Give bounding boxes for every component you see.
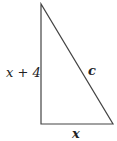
hypotenuse-label: c xyxy=(88,64,96,77)
triangle-outline xyxy=(41,4,113,124)
base-label: x xyxy=(72,127,80,140)
vertical-side-label: x + 4 xyxy=(6,66,41,79)
